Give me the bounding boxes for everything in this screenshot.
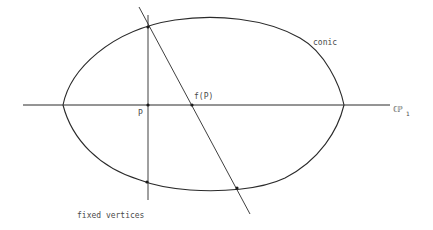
fp-label: f(P): [194, 92, 213, 101]
fixed-vertices-label: fixed vertices: [77, 211, 145, 220]
top-intersection-point: [146, 25, 149, 28]
cp1-label: ℂℙ: [393, 105, 403, 114]
cp1-subscript: 1: [406, 110, 410, 117]
slanted-line-through-fp: [139, 7, 250, 214]
p-label: P: [138, 109, 143, 118]
conic-label: conic: [313, 38, 337, 47]
conic-diagram: conic f(P) P ℂℙ 1 fixed vertices: [0, 0, 433, 230]
point-fp: [190, 103, 193, 106]
bottom-right-intersection-point: [235, 186, 238, 189]
point-p: [146, 103, 149, 106]
bottom-left-intersection-point: [145, 180, 148, 183]
conic-curve: [63, 17, 344, 190]
